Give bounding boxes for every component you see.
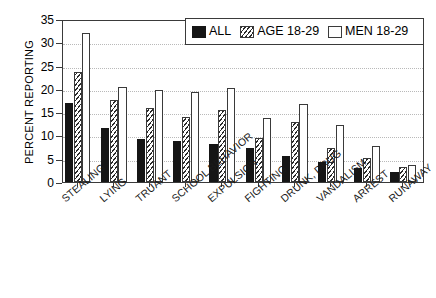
legend-item[interactable]: AGE 18-29 (240, 25, 319, 38)
bar-all (390, 172, 398, 182)
legend-label: MEN 18-29 (345, 25, 408, 38)
bar-group (63, 21, 99, 182)
y-tick-label: 35 (28, 14, 54, 26)
bar-men (191, 92, 199, 182)
bar-men (227, 88, 235, 182)
y-tick-label: 30 (28, 37, 54, 49)
bar-all (65, 103, 73, 182)
bar-chart: PERCENT REPORTING 05101520253035 STEALIN… (0, 0, 436, 298)
y-tick-label: 10 (28, 130, 54, 142)
bar-age (146, 108, 154, 182)
bar-group (135, 21, 171, 182)
y-tick-label: 25 (28, 61, 54, 73)
y-tick-label: 0 (28, 177, 54, 189)
bar-all (173, 141, 181, 182)
bar-all (137, 139, 145, 182)
legend-label: AGE 18-29 (257, 25, 319, 38)
bar-age (110, 100, 118, 182)
legend-swatch-men-icon (328, 26, 342, 38)
bar-men (82, 33, 90, 182)
bar-group (172, 21, 208, 182)
bar-men (155, 90, 163, 182)
y-tick-label: 20 (28, 84, 54, 96)
legend-swatch-age-icon (240, 26, 254, 38)
bar-age (74, 72, 82, 182)
bar-group (280, 21, 316, 182)
bar-group (389, 21, 425, 182)
y-tick-label: 5 (28, 154, 54, 166)
bar-age (291, 122, 299, 182)
bar-age (182, 117, 190, 182)
y-tick-label: 15 (28, 107, 54, 119)
chart-legend: ALLAGE 18-29MEN 18-29 (185, 18, 424, 45)
legend-swatch-all-icon (192, 26, 206, 38)
legend-item[interactable]: ALL (192, 25, 231, 38)
bar-men (118, 87, 126, 182)
legend-item[interactable]: MEN 18-29 (328, 25, 408, 38)
legend-label: ALL (209, 25, 231, 38)
bar-group (99, 21, 135, 182)
y-tick-mark (56, 183, 62, 184)
